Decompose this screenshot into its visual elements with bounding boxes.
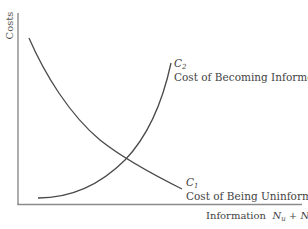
x-axis-var-n: N: [272, 210, 281, 221]
c2-subscript: 2: [182, 63, 186, 71]
curve-c2-cost-of-becoming-informed: [38, 63, 171, 198]
x-axis-label-text: Information: [206, 210, 266, 221]
y-axis-label: Costs: [4, 12, 15, 40]
c1-label: C1: [186, 177, 199, 190]
c1-description: Cost of Being Uninformed: [186, 191, 308, 202]
x-axis-label: Information Nu + Nf: [206, 211, 308, 223]
c2-description: Cost of Becoming Informed: [174, 72, 308, 83]
c2-label: C2: [174, 58, 187, 71]
c2-name: C: [174, 57, 182, 69]
x-axis-var-n2: N: [300, 210, 308, 221]
x-axis-var-u: u: [281, 215, 286, 223]
x-axis-plus: +: [289, 210, 297, 221]
c1-name: C: [186, 176, 194, 188]
curve-c1-cost-of-being-uninformed: [29, 38, 182, 189]
c1-subscript: 1: [194, 182, 198, 190]
